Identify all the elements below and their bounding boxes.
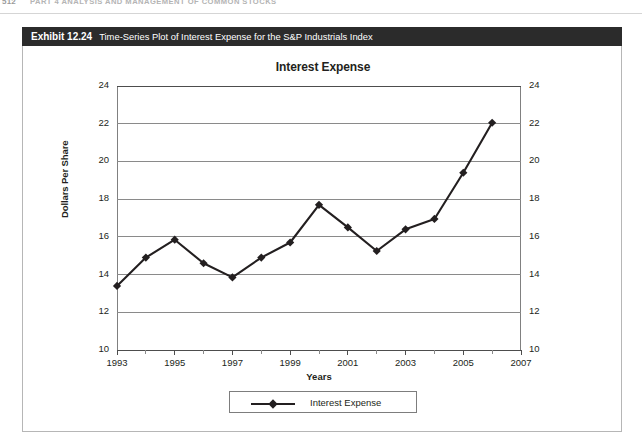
exhibit-title-bar: Exhibit 12.24 Time-Series Plot of Intere… bbox=[22, 27, 622, 46]
x-tick-label-2007: 2007 bbox=[510, 357, 531, 368]
plot-area: 10101212141416161818202022222424 1993199… bbox=[117, 86, 521, 350]
y-axis-title: Dollars Per Share bbox=[59, 140, 70, 218]
x-tick-2002 bbox=[376, 350, 377, 354]
page-folio: 512 bbox=[2, 0, 16, 6]
y-tick-label-left-12: 12 bbox=[98, 305, 109, 316]
exhibit-number: Exhibit 12.24 bbox=[31, 31, 92, 42]
x-tick-2006 bbox=[492, 350, 493, 354]
x-tick-label-1995: 1995 bbox=[164, 357, 185, 368]
x-axis-title: Years bbox=[117, 371, 521, 382]
x-tick-2003 bbox=[405, 350, 406, 355]
exhibit-caption: Time-Series Plot of Interest Expense for… bbox=[99, 31, 373, 42]
header-divider bbox=[0, 13, 642, 14]
series-line bbox=[117, 123, 492, 286]
x-tick-label-2003: 2003 bbox=[395, 357, 416, 368]
y-tick-label-left-10: 10 bbox=[98, 343, 109, 354]
y-tick-label-right-18: 18 bbox=[529, 192, 540, 203]
x-tick-label-2005: 2005 bbox=[453, 357, 474, 368]
y-tick-label-left-22: 22 bbox=[98, 117, 109, 128]
y-tick-label-right-14: 14 bbox=[529, 268, 540, 279]
chart-title: Interest Expense bbox=[23, 60, 623, 74]
y-tick-label-left-18: 18 bbox=[98, 192, 109, 203]
x-tick-2005 bbox=[463, 350, 464, 355]
x-tick-1994 bbox=[145, 350, 146, 354]
x-tick-2007 bbox=[521, 350, 522, 355]
x-tick-label-1993: 1993 bbox=[106, 357, 127, 368]
series-markers bbox=[113, 119, 496, 290]
x-tick-1993 bbox=[117, 350, 118, 355]
x-tick-1999 bbox=[290, 350, 291, 355]
y-tick-label-right-22: 22 bbox=[529, 117, 540, 128]
y-tick-label-right-12: 12 bbox=[529, 305, 540, 316]
y-tick-label-right-24: 24 bbox=[529, 79, 540, 90]
x-tick-2001 bbox=[347, 350, 348, 355]
x-tick-1997 bbox=[232, 350, 233, 355]
y-tick-label-right-16: 16 bbox=[529, 230, 540, 241]
x-tick-label-2001: 2001 bbox=[337, 357, 358, 368]
exhibit-frame: Interest Expense Dollars Per Share Years… bbox=[22, 46, 622, 432]
data-series-interest-expense bbox=[117, 86, 521, 350]
y-tick-label-left-14: 14 bbox=[98, 268, 109, 279]
y-tick-label-left-20: 20 bbox=[98, 154, 109, 165]
y-tick-label-right-10: 10 bbox=[529, 343, 540, 354]
legend-label-interest-expense: Interest Expense bbox=[310, 397, 381, 408]
running-head-text: PART 4 ANALYSIS AND MANAGEMENT OF COMMON… bbox=[30, 0, 277, 6]
page-running-head: 512 PART 4 ANALYSIS AND MANAGEMENT OF CO… bbox=[0, 0, 642, 14]
x-tick-2004 bbox=[434, 350, 435, 354]
y-tick-label-right-20: 20 bbox=[529, 154, 540, 165]
y-tick-label-left-24: 24 bbox=[98, 79, 109, 90]
x-tick-1998 bbox=[261, 350, 262, 354]
chart-legend: Interest Expense bbox=[229, 391, 417, 413]
legend-marker-icon bbox=[250, 396, 296, 408]
x-tick-1995 bbox=[174, 350, 175, 355]
x-tick-2000 bbox=[319, 350, 320, 354]
y-tick-label-left-16: 16 bbox=[98, 230, 109, 241]
x-tick-label-1999: 1999 bbox=[280, 357, 301, 368]
x-tick-label-1997: 1997 bbox=[222, 357, 243, 368]
x-tick-1996 bbox=[203, 350, 204, 354]
